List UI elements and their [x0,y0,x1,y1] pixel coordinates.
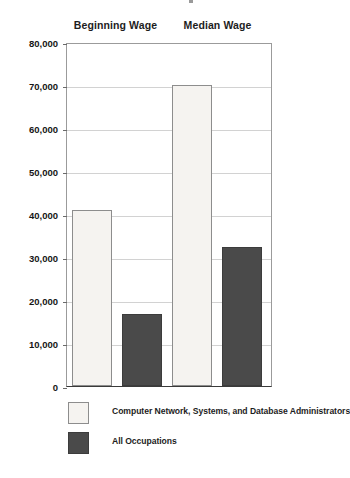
y-axis-tick-mark [63,302,67,303]
y-axis-tick-label: 50,000 [0,167,58,178]
legend-swatch-icon [68,402,89,424]
y-axis-tick-mark [63,173,67,174]
gridline [67,130,271,131]
y-axis-tick-label: 10,000 [0,339,58,350]
group-header-beginning-wage: Beginning Wage [64,19,167,31]
y-axis-tick-mark [63,87,67,88]
plot-area [66,43,272,387]
legend-swatch-icon [68,432,89,454]
y-axis-tick-mark [63,130,67,131]
chart-bar [172,85,212,386]
y-axis-tick-mark [63,216,67,217]
chart-bar [122,314,162,386]
y-axis-tick-mark [63,388,67,389]
y-axis-tick-label: 60,000 [0,124,58,135]
legend-item-label: Computer Network, Systems, and Database … [112,406,350,416]
chart-bar [222,247,262,386]
y-axis-tick-label: 70,000 [0,81,58,92]
chart-bar [72,210,112,386]
y-axis-tick-label: 40,000 [0,210,58,221]
chart-legend: Computer Network, Systems, and Database … [68,400,332,460]
y-axis-tick-label: 20,000 [0,296,58,307]
y-axis-tick-mark [63,345,67,346]
y-axis-tick-label: 0 [0,382,58,393]
y-axis-tick-mark [63,259,67,260]
y-axis-tick-mark [63,44,67,45]
legend-item-series-1: Computer Network, Systems, and Database … [68,400,332,430]
legend-item-label: All Occupations [112,436,177,446]
gridline [67,173,271,174]
gridline [67,87,271,88]
y-axis-tick-label: 30,000 [0,253,58,264]
legend-item-series-2: All Occupations [68,430,332,460]
page-artifact-mark [189,0,193,3]
group-header-median-wage: Median Wage [166,19,269,31]
y-axis-tick-label: 80,000 [0,38,58,49]
